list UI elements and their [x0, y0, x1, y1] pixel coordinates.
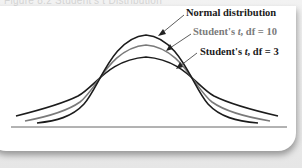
- figure-page: Figure 8.2 Student's t Distribution Norm…: [0, 0, 302, 168]
- label-t3-suffix: , df = 3: [248, 46, 279, 57]
- label-t-df10: Student's t, df = 10: [193, 27, 277, 38]
- label-normal-distribution: Normal distribution: [186, 8, 276, 19]
- leader-arrow-normal: [158, 15, 184, 36]
- label-t10-suffix: , df = 10: [241, 26, 277, 37]
- curve-t-df3: [16, 57, 278, 116]
- label-t10-prefix: Student's: [193, 26, 238, 37]
- label-t-df3: Student's t, df = 3: [200, 47, 279, 58]
- label-normal-text: Normal distribution: [186, 7, 276, 18]
- label-t3-prefix: Student's: [200, 46, 245, 57]
- leader-arrow-t10: [166, 34, 191, 51]
